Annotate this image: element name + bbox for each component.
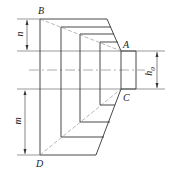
point-label-b: B [38,6,44,16]
dimension-label-m: m [13,117,23,124]
h0-sub: 0 [149,67,157,71]
diagram-canvas: B A C D n m h0 [0,0,178,184]
outer-outline [40,19,107,155]
frustum-drawing [0,0,178,184]
point-label-a: A [123,40,129,50]
dimension-label-h0: h0 [144,67,157,76]
dimension-label-n: n [15,32,25,37]
step-3 [100,42,118,105]
point-label-d: D [36,159,43,169]
step-1 [61,27,111,137]
h0-main: h [143,71,154,76]
point-label-c: C [123,93,130,103]
